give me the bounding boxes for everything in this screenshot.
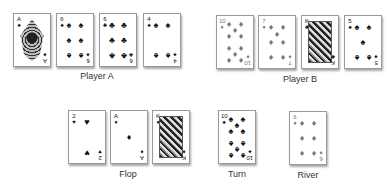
spade-icon: ♠ bbox=[79, 20, 84, 29]
diamond-icon: ♦ bbox=[312, 118, 317, 127]
heart-icon: ♥ bbox=[84, 148, 89, 157]
diamond-icon: ♦ bbox=[233, 49, 238, 58]
spade-icon: ♠ bbox=[67, 20, 72, 29]
card-two-of-hearts: 2♥ ♥ ♥ 2♥ bbox=[68, 110, 106, 164]
diamond-icon: ♦ bbox=[227, 43, 232, 52]
diamond-icon: ♦ bbox=[227, 20, 232, 29]
diamond-icon: ♦ bbox=[239, 20, 244, 29]
spade-icon: ♠ bbox=[229, 150, 234, 159]
card-corner: K♦ bbox=[181, 149, 187, 161]
card-ten-of-spades: 10♠ ♠ ♠ ♠ ♠ ♠ ♠ ♠ ♠ ♠ ♠ 10♠ bbox=[218, 110, 256, 164]
card-ace-of-diamonds: A♦ ♦ A♦ bbox=[110, 110, 148, 164]
spade-icon: ♠ bbox=[241, 115, 246, 124]
club-icon: ♣ bbox=[121, 20, 127, 29]
card-corner: A♦ bbox=[139, 149, 145, 161]
club-icon: ♣ bbox=[109, 36, 115, 45]
diamond-icon: ♦ bbox=[227, 32, 232, 41]
king-portrait-icon bbox=[159, 116, 183, 158]
spade-icon: ♠ bbox=[154, 20, 159, 29]
card-six-of-clubs: 6♣ ♣ ♣ ♣ ♣ ♣ ♣ 6♣ bbox=[99, 13, 137, 67]
diamond-icon: ♦ bbox=[275, 30, 280, 39]
card-corner: 5♠ bbox=[373, 54, 379, 66]
diamond-icon: ♦ bbox=[239, 55, 244, 64]
diamond-icon: ♦ bbox=[227, 55, 232, 64]
card-corner: K♣ bbox=[330, 54, 336, 66]
heart-icon: ♥ bbox=[84, 117, 89, 126]
card-corner: 10♦ bbox=[245, 54, 251, 66]
spade-icon: ♠ bbox=[79, 51, 84, 60]
spade-icon: ♠ bbox=[154, 51, 159, 60]
diamond-icon: ♦ bbox=[269, 22, 274, 31]
card-corner: 6♦ bbox=[318, 150, 324, 162]
king-portrait-icon bbox=[308, 21, 332, 63]
club-icon: ♣ bbox=[121, 51, 127, 60]
spade-icon: ♠ bbox=[229, 115, 234, 124]
card-corner: A♠ bbox=[42, 52, 48, 64]
diamond-icon: ♦ bbox=[269, 38, 274, 47]
card-corner: 10♠ bbox=[247, 149, 253, 161]
spade-icon: ♠ bbox=[229, 127, 234, 136]
card-four-of-spades: 4♠ ♠ ♠ ♠ ♠ 4♠ bbox=[143, 13, 181, 67]
spade-icon: ♠ bbox=[166, 51, 171, 60]
spade-icon: ♠ bbox=[229, 138, 234, 147]
river-label: River bbox=[297, 170, 318, 180]
card-seven-of-diamonds: 7♦ ♦ ♦ ♦ ♦ ♦ ♦ ♦ 7♦ bbox=[258, 15, 296, 69]
card-six-of-diamonds: 6♦ ♦ ♦ ♦ ♦ ♦ ♦ 6♦ bbox=[289, 111, 327, 165]
diamond-icon: ♦ bbox=[312, 149, 317, 158]
spade-icon: ♠ bbox=[367, 22, 372, 31]
club-icon: ♣ bbox=[121, 36, 127, 45]
spade-icon: ♠ bbox=[241, 138, 246, 147]
diamond-icon: ♦ bbox=[300, 149, 305, 158]
diamond-icon: ♦ bbox=[239, 43, 244, 52]
card-corner: 4♠ bbox=[172, 52, 178, 64]
flop-label: Flop bbox=[119, 169, 137, 179]
diamond-icon: ♦ bbox=[239, 32, 244, 41]
turn-label: Turn bbox=[228, 169, 246, 179]
spade-icon: ♠ bbox=[67, 51, 72, 60]
club-icon: ♣ bbox=[109, 20, 115, 29]
spade-icon: ♠ bbox=[67, 36, 72, 45]
diamond-icon: ♦ bbox=[269, 53, 274, 62]
spade-icon: ♠ bbox=[355, 53, 360, 62]
diamond-icon: ♦ bbox=[281, 38, 286, 47]
diamond-icon: ♦ bbox=[127, 133, 132, 142]
card-king-of-clubs: K♣ K♣ bbox=[301, 15, 339, 69]
card-ace-of-spades: A♠ A♠ bbox=[13, 13, 51, 67]
spade-icon: ♠ bbox=[241, 150, 246, 159]
spade-icon: ♠ bbox=[235, 121, 240, 130]
card-corner: 6♠ bbox=[85, 52, 91, 64]
card-corner: 2♥ bbox=[97, 149, 103, 161]
card-ten-of-diamonds: 10♦ ♦ ♦ ♦ ♦ ♦ ♦ ♦ ♦ ♦ ♦ 10♦ bbox=[216, 15, 254, 69]
player-b-label: Player B bbox=[283, 74, 317, 84]
spade-icon: ♠ bbox=[361, 38, 366, 47]
card-corner: 7♦ bbox=[287, 54, 293, 66]
diamond-icon: ♦ bbox=[312, 134, 317, 143]
spade-icon: ♠ bbox=[166, 20, 171, 29]
diamond-icon: ♦ bbox=[281, 22, 286, 31]
player-a-label: Player A bbox=[80, 71, 114, 81]
diamond-icon: ♦ bbox=[300, 134, 305, 143]
card-six-of-spades: 6♠ ♠ ♠ ♠ ♠ ♠ ♠ 6♠ bbox=[56, 13, 94, 67]
spade-icon: ♠ bbox=[367, 53, 372, 62]
card-king-of-diamonds: K♦ K♦ bbox=[152, 110, 190, 164]
card-corner: A♠ bbox=[16, 16, 22, 28]
spade-icon: ♠ bbox=[79, 36, 84, 45]
club-icon: ♣ bbox=[109, 51, 115, 60]
card-corner: 6♣ bbox=[128, 52, 134, 64]
spade-icon: ♠ bbox=[355, 22, 360, 31]
spade-icon: ♠ bbox=[235, 144, 240, 153]
diamond-icon: ♦ bbox=[281, 53, 286, 62]
diamond-icon: ♦ bbox=[300, 118, 305, 127]
spade-icon: ♠ bbox=[241, 127, 246, 136]
card-five-of-spades: 5♠ ♠ ♠ ♠ ♠ ♠ 5♠ bbox=[344, 15, 382, 69]
diamond-icon: ♦ bbox=[233, 26, 238, 35]
